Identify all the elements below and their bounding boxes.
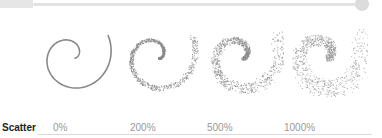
- scatter-title: Scatter: [2, 122, 36, 133]
- scatter-slider[interactable]: [0, 0, 382, 12]
- spiral-icon: [278, 14, 368, 104]
- spiral-icon: [110, 14, 200, 104]
- spiral-200-percent: [110, 14, 200, 104]
- label-500: 500%: [207, 122, 233, 133]
- spiral-icon: [26, 14, 116, 104]
- label-0: 0%: [53, 122, 67, 133]
- spiral-500-percent: [194, 14, 284, 104]
- scatter-labels: Scatter 0% 200% 500% 1000%: [0, 118, 382, 138]
- label-rule: [38, 134, 372, 135]
- spiral-icon: [194, 14, 284, 104]
- slider-track[interactable]: [33, 3, 363, 6]
- slider-fill: [0, 0, 33, 8]
- spiral-0-percent: [26, 14, 116, 104]
- label-200: 200%: [130, 122, 156, 133]
- label-1000: 1000%: [284, 122, 315, 133]
- slider-knob[interactable]: [355, 0, 369, 11]
- spiral-1000-percent: [278, 14, 368, 104]
